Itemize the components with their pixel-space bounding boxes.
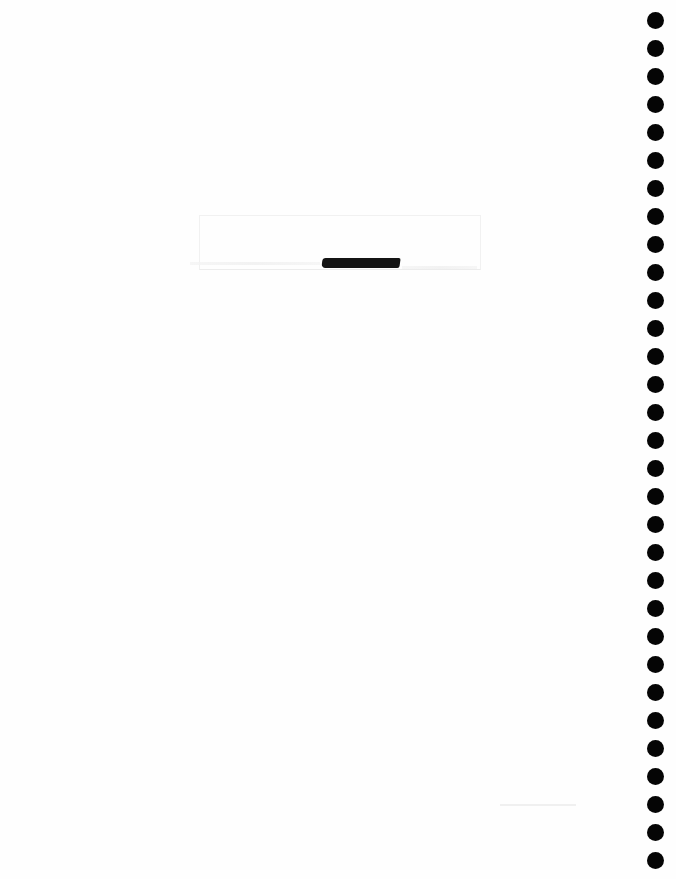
binding-hole bbox=[647, 600, 664, 617]
binding-hole bbox=[647, 432, 664, 449]
binding-hole bbox=[647, 404, 664, 421]
binding-hole bbox=[647, 572, 664, 589]
binding-hole bbox=[647, 460, 664, 477]
binding-hole bbox=[647, 376, 664, 393]
redaction-bar bbox=[321, 258, 400, 268]
binding-hole bbox=[647, 292, 664, 309]
faint-text-line-left bbox=[190, 262, 320, 265]
spiral-binding-holes bbox=[647, 0, 667, 879]
faint-bottom-line bbox=[500, 804, 576, 806]
binding-hole bbox=[647, 516, 664, 533]
binding-hole bbox=[647, 96, 664, 113]
binding-hole bbox=[647, 124, 664, 141]
binding-hole bbox=[647, 68, 664, 85]
binding-hole bbox=[647, 12, 664, 29]
binding-hole bbox=[647, 852, 664, 869]
binding-hole bbox=[647, 796, 664, 813]
binding-hole bbox=[647, 656, 664, 673]
binding-hole bbox=[647, 208, 664, 225]
binding-hole bbox=[647, 488, 664, 505]
binding-hole bbox=[647, 628, 664, 645]
binding-hole bbox=[647, 768, 664, 785]
binding-hole bbox=[647, 684, 664, 701]
document-page bbox=[0, 0, 676, 879]
binding-hole bbox=[647, 264, 664, 281]
binding-hole bbox=[647, 320, 664, 337]
binding-hole bbox=[647, 236, 664, 253]
binding-hole bbox=[647, 712, 664, 729]
faint-text-line-right bbox=[402, 266, 477, 269]
binding-hole bbox=[647, 180, 664, 197]
binding-hole bbox=[647, 348, 664, 365]
binding-hole bbox=[647, 40, 664, 57]
binding-hole bbox=[647, 824, 664, 841]
binding-hole bbox=[647, 740, 664, 757]
binding-hole bbox=[647, 544, 664, 561]
binding-hole bbox=[647, 152, 664, 169]
